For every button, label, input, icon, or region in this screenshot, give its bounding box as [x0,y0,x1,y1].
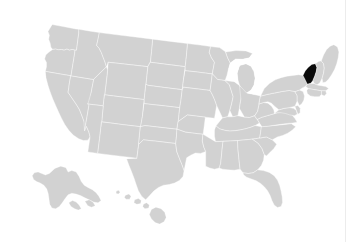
us-map-container: United States Map Vermont highlighted Ve… [0,0,351,242]
state-colorado[interactable] [102,95,144,127]
state-wyoming[interactable] [105,62,148,99]
alaska-inset-group [32,166,101,210]
state-south-dakota[interactable] [146,62,185,89]
state-north-dakota[interactable] [150,39,187,66]
contiguous-states-group [45,25,339,208]
state-washington[interactable] [48,25,79,51]
state-kansas[interactable] [141,104,180,130]
state-alaska[interactable] [32,166,101,210]
state-florida[interactable] [243,170,283,208]
us-map-svg[interactable] [0,0,351,242]
state-new-mexico[interactable] [98,122,141,158]
right-edge-rule [345,0,346,242]
state-rhode-island[interactable] [321,91,326,96]
state-oregon[interactable] [45,49,75,76]
state-maine[interactable] [321,45,339,83]
state-montana[interactable] [97,33,153,67]
state-minnesota[interactable] [185,44,214,74]
